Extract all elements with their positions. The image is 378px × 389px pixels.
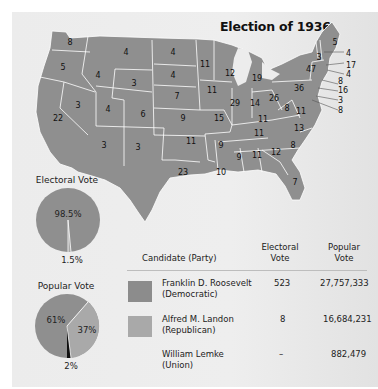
popular-pct-republican: 37%	[78, 325, 97, 335]
header-popular-vote: Popular Vote	[322, 242, 366, 264]
popular-pct-union: 2%	[64, 361, 78, 371]
candidate-party: (Democratic)	[162, 289, 252, 300]
electoral-value: 523	[274, 278, 290, 288]
electoral-value: 8	[280, 314, 285, 324]
table-row-landon: Alfred M. Landon (Republican)	[162, 314, 234, 336]
candidate-name: William Lemke	[162, 349, 224, 360]
header-popular-line1: Popular	[322, 242, 366, 253]
header-electoral-line1: Electoral	[259, 242, 301, 253]
header-electoral-line2: Vote	[259, 253, 301, 264]
candidate-name: Franklin D. Roosevelt	[162, 278, 252, 289]
candidate-party: (Republican)	[162, 325, 234, 336]
popular-value: 882,479	[331, 349, 366, 359]
popular-pct-democratic: 61%	[47, 315, 66, 325]
electoral-value: –	[279, 349, 283, 359]
popular-value: 27,757,333	[320, 278, 369, 288]
democratic-swatch	[128, 281, 152, 302]
candidate-party: (Union)	[162, 360, 224, 371]
candidate-name: Alfred M. Landon	[162, 314, 234, 325]
header-popular-line2: Vote	[322, 253, 366, 264]
table-header-divider	[127, 270, 367, 271]
table-row-lemke: William Lemke (Union)	[162, 349, 224, 371]
header-candidate: Candidate (Party)	[142, 253, 217, 264]
popular-value: 16,684,231	[323, 314, 372, 324]
republican-swatch	[128, 316, 152, 337]
header-electoral-vote: Electoral Vote	[259, 242, 301, 264]
table-row-roosevelt: Franklin D. Roosevelt (Democratic)	[162, 278, 252, 300]
